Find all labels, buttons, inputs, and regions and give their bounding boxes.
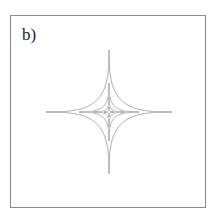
star-curve-second	[79, 83, 139, 141]
nested-star-curves	[46, 50, 172, 174]
star-curves-diagram	[0, 0, 212, 218]
star-curve-third	[94, 97, 124, 127]
star-curve-innermost	[104, 107, 114, 117]
star-curve-outer	[46, 50, 172, 174]
